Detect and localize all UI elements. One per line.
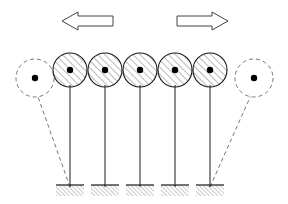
ground-plate-group: [56, 185, 224, 196]
ground-plate-1-hatch: [56, 185, 84, 196]
pendulum-5-center-dot: [207, 67, 213, 73]
pendulum-4-center-dot: [172, 67, 178, 73]
ground-plate-4-hatch: [161, 185, 189, 196]
pendulum-2-center-dot: [102, 67, 108, 73]
ground-plate-3-hatch: [126, 185, 154, 196]
ground-plate-5-hatch: [196, 185, 224, 196]
pendulum-3-center-dot: [137, 67, 143, 73]
figure-background: [0, 0, 288, 204]
inverted-pendulum-diagram: [0, 0, 288, 204]
ground-plate-2-hatch: [91, 185, 119, 196]
pendulum-1-center-dot: [67, 67, 73, 73]
ghost-pendulum-right-center-dot: [251, 75, 257, 81]
ghost-pendulum-left-center-dot: [32, 75, 38, 81]
figure-canvas: [0, 0, 288, 204]
